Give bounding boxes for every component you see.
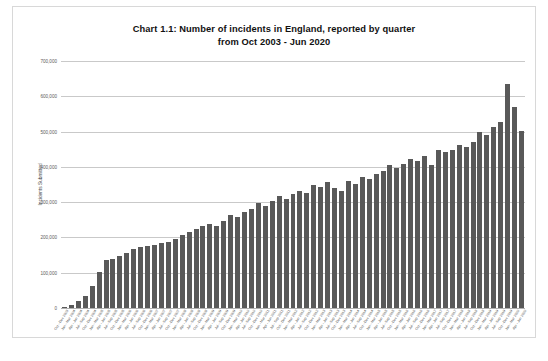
x-axis-labels: Oct - Dec 2003Jan - Mar 2004Apr - Jun 20… [61, 309, 525, 339]
bar [200, 226, 205, 308]
bar [69, 305, 74, 308]
y-axis-tick-label: 0 [54, 306, 57, 311]
bar [471, 142, 476, 308]
bar [166, 242, 171, 308]
bar [367, 179, 372, 308]
chart-figure: Chart 1.1: Number of incidents in Englan… [12, 6, 536, 338]
bar [145, 246, 150, 308]
bar [104, 260, 109, 308]
bar [76, 301, 81, 308]
y-axis-tick-label: 400,000 [40, 164, 57, 169]
bar [401, 164, 406, 308]
bar [387, 165, 392, 308]
bar [360, 177, 365, 308]
y-axis-tick-label: 300,000 [40, 200, 57, 205]
bar [415, 161, 420, 308]
bar [207, 224, 212, 308]
bar [131, 249, 136, 308]
bar [221, 221, 226, 308]
bar [235, 217, 240, 308]
bar [477, 132, 482, 308]
bar [318, 187, 323, 308]
bar [394, 168, 399, 308]
bar [90, 286, 95, 308]
bar [512, 107, 517, 308]
bar [353, 184, 358, 308]
plot-area: 0100,000200,000300,000400,000500,000600,… [61, 61, 525, 308]
bar [124, 253, 129, 308]
bar [180, 235, 185, 308]
bar [249, 209, 254, 308]
bar [429, 165, 434, 308]
chart-title-line1: Chart 1.1: Number of incidents in Englan… [133, 24, 416, 34]
bar [277, 196, 282, 308]
bar [491, 127, 496, 308]
bar [159, 243, 164, 308]
bar [408, 159, 413, 308]
y-axis-tick-label: 500,000 [40, 129, 57, 134]
bar [304, 193, 309, 308]
bar [443, 152, 448, 308]
bar [464, 147, 469, 308]
chart-title: Chart 1.1: Number of incidents in Englan… [13, 23, 535, 49]
bar [194, 229, 199, 308]
bar [83, 296, 88, 308]
bar [117, 256, 122, 308]
bar [519, 131, 524, 308]
bar [187, 232, 192, 308]
bar [498, 122, 503, 308]
bar [450, 150, 455, 308]
bar [339, 191, 344, 308]
bar [422, 156, 427, 308]
bar [256, 203, 261, 308]
bar [110, 259, 115, 308]
bar [291, 194, 296, 308]
bar [311, 185, 316, 308]
bar-series [61, 61, 525, 308]
bar [284, 199, 289, 308]
bar [214, 226, 219, 308]
bar [97, 272, 102, 308]
bar [173, 239, 178, 308]
bar [270, 201, 275, 308]
bar [152, 245, 157, 308]
bar [228, 215, 233, 308]
bar [374, 174, 379, 308]
bar [332, 188, 337, 308]
chart-title-line2: from Oct 2003 - Jun 2020 [13, 36, 535, 49]
bar [325, 182, 330, 308]
y-axis-tick-label: 100,000 [40, 270, 57, 275]
bar [263, 206, 268, 308]
bar [484, 135, 489, 308]
bar [138, 247, 143, 308]
bar [505, 84, 510, 308]
bar [242, 212, 247, 308]
y-axis-tick-label: 700,000 [40, 59, 57, 64]
bar [436, 150, 441, 308]
bar [457, 145, 462, 308]
bar [346, 181, 351, 308]
bar [297, 191, 302, 309]
y-axis-tick-label: 200,000 [40, 235, 57, 240]
bar [381, 171, 386, 308]
y-axis-tick-label: 600,000 [40, 94, 57, 99]
